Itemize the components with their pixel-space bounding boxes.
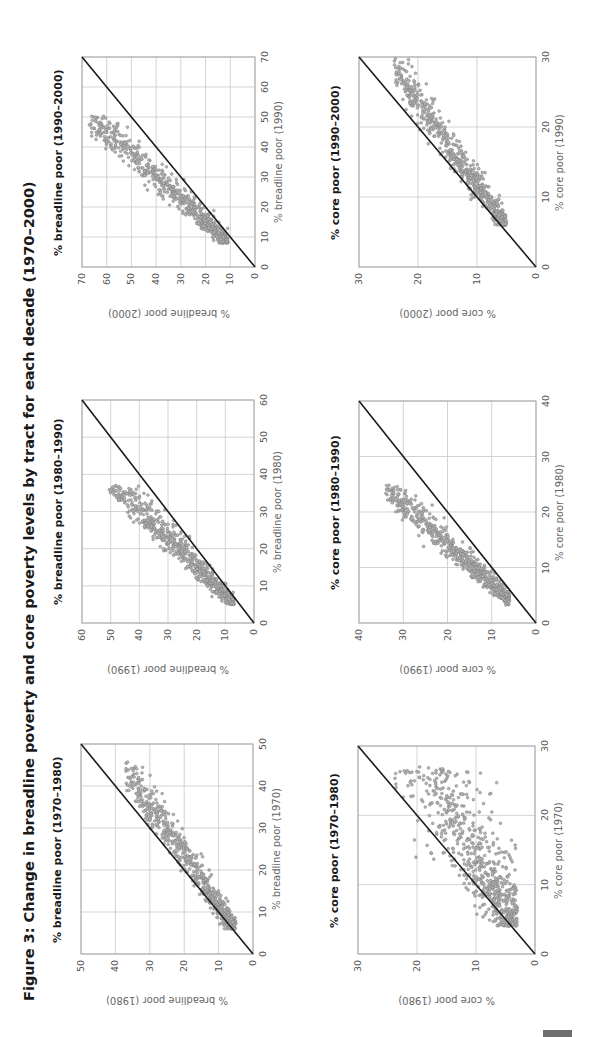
scatter-plot: [359, 401, 536, 623]
x-axis-label: % breadline poor (1990): [273, 101, 284, 223]
y-tick-label: 40: [133, 629, 144, 641]
y-tick-label: 20: [191, 629, 202, 641]
x-axis-label: % core poor (1980): [554, 464, 565, 561]
scatter-plot: [82, 57, 255, 267]
x-tick-label: 60: [258, 394, 269, 406]
y-axis-label: % core poor (1980): [398, 995, 495, 1006]
x-tick-label: 10: [539, 879, 550, 891]
y-axis-label: % breadline poor (1990): [107, 664, 229, 675]
x-axis-label: % breadline poor (1970): [271, 788, 282, 910]
y-tick-label: 10: [471, 273, 482, 285]
x-tick-label: 40: [257, 780, 268, 792]
y-tick-label: 0: [248, 629, 259, 635]
y-tick-label: 50: [105, 629, 116, 641]
x-tick-label: 50: [259, 111, 270, 123]
chart-title: % core poor (1980–1990): [329, 435, 342, 590]
y-tick-label: 30: [353, 273, 364, 285]
x-tick-label: 30: [259, 171, 270, 183]
y-tick-label: 10: [224, 273, 235, 285]
y-tick-label: 50: [75, 960, 86, 972]
y-tick-label: 60: [101, 273, 112, 285]
x-tick-label: 50: [258, 431, 269, 443]
x-tick-label: 10: [540, 191, 551, 203]
x-axis-label: % core poor (1970): [553, 802, 564, 899]
scatter-plot: [358, 746, 535, 954]
x-tick-label: 10: [258, 580, 269, 592]
x-tick-label: 50: [257, 738, 268, 750]
x-tick-label: 20: [539, 809, 550, 821]
reference-line-y-equals-x: [81, 744, 253, 954]
y-tick-label: 30: [352, 960, 363, 972]
chart-title: % breadline poor (1970–1980): [51, 756, 64, 943]
x-tick-label: 20: [540, 121, 551, 133]
x-tick-label: 0: [540, 620, 551, 626]
y-axis-label: % core poor (2000): [399, 308, 496, 319]
x-tick-label: 20: [257, 864, 268, 876]
chart-title: % core poor (1970–1980): [328, 773, 341, 928]
x-tick-label: 0: [258, 620, 269, 626]
x-tick-label: 40: [258, 468, 269, 480]
y-axis-label: % breadline poor (2000): [108, 308, 230, 319]
y-tick-label: 30: [175, 273, 186, 285]
x-tick-label: 0: [540, 264, 551, 270]
page-corner-block: [543, 1030, 572, 1037]
y-tick-label: 0: [249, 273, 260, 279]
y-tick-label: 10: [486, 629, 497, 641]
reference-line-y-equals-x: [82, 57, 255, 267]
y-tick-label: 10: [219, 629, 230, 641]
y-tick-label: 20: [178, 960, 189, 972]
y-tick-label: 30: [162, 629, 173, 641]
x-tick-label: 40: [540, 395, 551, 407]
x-axis-label: % breadline poor (1980): [272, 451, 283, 573]
chart-title: % breadline poor (1990–2000): [52, 69, 65, 256]
y-tick-label: 0: [530, 629, 541, 635]
x-axis-label: % core poor (1990): [554, 114, 565, 211]
y-tick-label: 30: [397, 629, 408, 641]
x-tick-label: 10: [540, 561, 551, 573]
x-tick-label: 40: [259, 141, 270, 153]
x-tick-label: 10: [257, 906, 268, 918]
figure-title: Figure 3: Change in breadline poverty an…: [21, 181, 37, 1001]
x-tick-label: 70: [259, 51, 270, 63]
y-tick-label: 50: [125, 273, 136, 285]
y-tick-label: 20: [411, 960, 422, 972]
y-tick-label: 0: [247, 960, 258, 966]
y-tick-label: 40: [150, 273, 161, 285]
y-tick-label: 70: [76, 273, 87, 285]
y-tick-label: 20: [442, 629, 453, 641]
x-tick-label: 0: [539, 951, 550, 957]
chart-title: % core poor (1990–2000): [329, 85, 342, 240]
x-tick-label: 30: [257, 822, 268, 834]
reference-line-y-equals-x: [359, 57, 536, 267]
y-tick-label: 40: [353, 629, 364, 641]
y-tick-label: 20: [200, 273, 211, 285]
y-axis-label: % core poor (1990): [399, 664, 496, 675]
x-tick-label: 30: [539, 740, 550, 752]
x-tick-label: 20: [258, 543, 269, 555]
y-tick-label: 10: [470, 960, 481, 972]
y-tick-label: 0: [530, 273, 541, 279]
y-tick-label: 60: [76, 629, 87, 641]
x-tick-label: 20: [540, 506, 551, 518]
y-tick-label: 40: [109, 960, 120, 972]
y-tick-label: 0: [529, 960, 540, 966]
chart-title: % breadline poor (1980–1990): [52, 418, 65, 605]
y-axis-label: % breadline poor (1980): [106, 995, 228, 1006]
y-tick-label: 10: [213, 960, 224, 972]
x-tick-label: 30: [540, 450, 551, 462]
x-tick-label: 0: [257, 951, 268, 957]
scatter-plot: [359, 57, 536, 267]
y-tick-label: 20: [412, 273, 423, 285]
x-tick-label: 30: [540, 51, 551, 63]
y-tick-label: 30: [144, 960, 155, 972]
x-tick-label: 20: [259, 201, 270, 213]
x-tick-label: 10: [259, 231, 270, 243]
scatter-plot: [81, 744, 253, 954]
x-tick-label: 30: [258, 505, 269, 517]
x-tick-label: 60: [259, 81, 270, 93]
x-tick-label: 0: [259, 264, 270, 270]
scatter-plot: [82, 400, 254, 623]
